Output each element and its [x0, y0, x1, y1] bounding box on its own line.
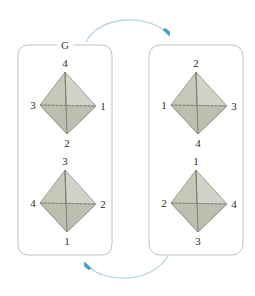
top-arrow-arc [86, 20, 168, 42]
tetrahedron-2-label-bottom: 1 [64, 235, 70, 247]
tetrahedron-1-label-bottom: 2 [64, 137, 70, 149]
tetrahedron-2-label-right: 2 [100, 198, 106, 210]
tetrahedron-2-label-top: 3 [62, 155, 68, 167]
tetrahedron-3-label-left: 1 [161, 99, 167, 111]
bottom-arrow-arc [86, 256, 168, 278]
group-label-G: G [61, 39, 69, 51]
tetrahedron-4-label-left: 2 [161, 197, 167, 209]
bottom-arrow-head-icon [84, 262, 92, 270]
tetrahedron-1-label-right: 1 [100, 100, 106, 112]
tetrahedron-3-label-right: 3 [231, 100, 237, 112]
bottom-arrow [84, 256, 168, 278]
top-arrow [86, 20, 170, 42]
tetrahedron-3-label-top: 2 [193, 57, 199, 69]
tetrahedron-3-label-bottom: 4 [195, 137, 201, 149]
figure-canvas: G 4 3 1 2 3 4 2 1 [0, 0, 255, 296]
tetrahedron-1-label-top: 4 [62, 57, 68, 69]
top-arrow-head-icon [162, 28, 170, 36]
tetrahedron-4-label-bottom: 3 [195, 235, 201, 247]
tetrahedron-1-label-left: 3 [30, 99, 36, 111]
tetrahedron-2-label-left: 4 [30, 197, 36, 209]
tetrahedron-4-label-right: 4 [231, 198, 237, 210]
tetrahedron-4-label-top: 1 [193, 155, 199, 167]
